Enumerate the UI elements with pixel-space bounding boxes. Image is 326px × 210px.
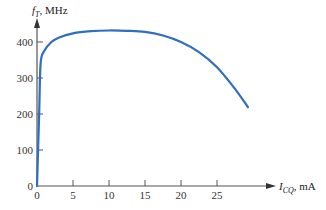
x-axis-label: ICQ, mA: [278, 180, 316, 195]
y-axis-label: fT, MHz: [32, 4, 68, 19]
x-ticks: 0510152025: [34, 180, 223, 201]
x-tick-label: 20: [176, 189, 188, 201]
y-tick-label: 300: [17, 72, 34, 84]
y-axis-arrow-icon: [34, 18, 40, 28]
y-tick-label: 400: [17, 36, 34, 48]
y-tick-label: 100: [17, 144, 34, 156]
x-tick-label: 15: [140, 189, 152, 201]
x-tick-label: 5: [70, 189, 76, 201]
y-tick-label: 0: [28, 180, 34, 192]
data-series-line: [37, 30, 248, 186]
x-axis-arrow-icon: [266, 183, 276, 189]
x-tick-label: 25: [212, 189, 224, 201]
x-tick-label: 0: [34, 189, 40, 201]
x-tick-label: 10: [104, 189, 116, 201]
y-tick-label: 200: [17, 108, 34, 120]
chart: 0100200300400 0510152025 fT, MHz ICQ, mA: [0, 0, 326, 210]
